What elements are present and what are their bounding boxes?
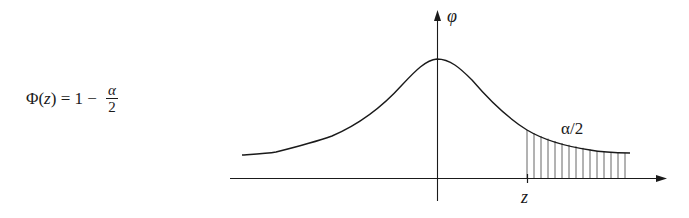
tail-area-label: α/2	[561, 119, 583, 138]
x-axis-arrow-icon	[656, 175, 667, 182]
y-axis-label: φ	[447, 6, 457, 26]
density-curve	[242, 59, 630, 155]
density-diagram: φ z α/2	[0, 0, 689, 218]
y-axis-arrow-icon	[434, 10, 441, 21]
z-tick-label: z	[520, 187, 528, 207]
